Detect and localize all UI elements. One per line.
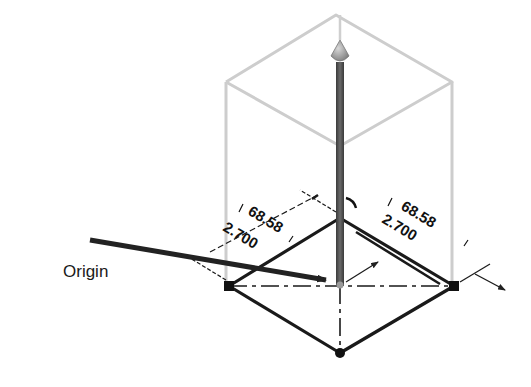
origin-label: Origin (63, 262, 108, 281)
z-axis-rod (331, 15, 349, 289)
angle-marker (346, 198, 356, 208)
isometric-origin-diagram: 68.58 2.700 68.58 2.700 Origin (0, 0, 531, 387)
dimension-right-text: 68.58 2.700 (379, 197, 468, 246)
origin-arrow (90, 240, 326, 280)
centerlines (229, 286, 454, 353)
vertex-points (224, 281, 459, 358)
dim-left-tick (312, 195, 318, 199)
origin-point (337, 282, 344, 289)
vertex-left (224, 281, 234, 291)
vertex-bottom (335, 348, 345, 358)
vertex-right (449, 281, 459, 291)
dimension-left-text: 68.58 2.700 (220, 202, 293, 252)
dimension-right (346, 232, 505, 290)
rod-shaft (336, 62, 344, 286)
dim-right-arrow (475, 274, 505, 290)
rod-cone-tip (331, 40, 349, 61)
dim-right-line (356, 232, 440, 284)
dim-right-inner-arrow (346, 262, 378, 282)
